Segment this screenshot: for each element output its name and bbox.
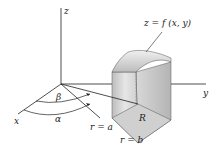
polar-region-diagram: z y x z = f (x, y) β α R r = a r = b (0, 0, 216, 152)
beta-arc (36, 94, 90, 102)
y-axis-label: y (202, 88, 209, 98)
diagram-svg: z y x z = f (x, y) β α R r = a r = b (0, 0, 216, 152)
z-axis-label: z (63, 6, 69, 16)
alpha-label: α (55, 114, 61, 124)
x-axis (18, 84, 61, 114)
beta-label: β (55, 92, 61, 102)
region-label: R (138, 113, 146, 123)
outer-radius-label: r = b (120, 135, 144, 145)
x-axis-label: x (14, 116, 19, 126)
inner-radius-label: r = a (90, 122, 113, 132)
surface-leader (146, 32, 162, 52)
surface-label: z = f (x, y) (143, 18, 192, 28)
